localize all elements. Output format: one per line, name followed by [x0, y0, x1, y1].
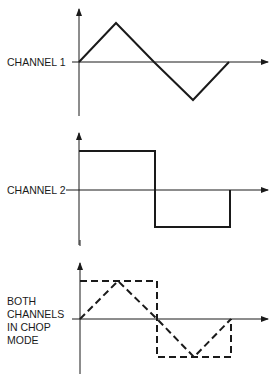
chop-label-line-4: MODE: [7, 334, 39, 346]
chop-mode-diagram: CHANNEL 1 CHANNEL 2 BOTH CHANNELS IN CHO…: [0, 0, 278, 379]
chop-label-line-1: BOTH: [7, 295, 36, 307]
chop-label-line-3: IN CHOP: [7, 321, 51, 333]
channel-2-label: CHANNEL 2: [7, 184, 66, 196]
chop-label-line-2: CHANNELS: [7, 308, 64, 320]
panel-chop-mode: BOTH CHANNELS IN CHOP MODE: [7, 240, 268, 374]
panel-channel-1: CHANNEL 1: [7, 9, 268, 116]
panel-channel-2: CHANNEL 2: [7, 133, 268, 245]
square-waveform: [79, 151, 230, 227]
channel-1-label: CHANNEL 1: [7, 56, 66, 68]
